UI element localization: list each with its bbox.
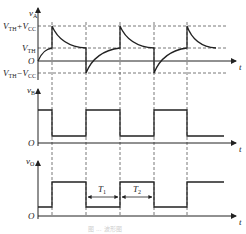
vb-waveform xyxy=(38,110,224,136)
vo-time-label: t xyxy=(239,217,242,227)
level-vth-minus-vcc: VTH−VCC xyxy=(3,68,36,79)
t2-label: T2 xyxy=(133,184,141,195)
t1-label: T1 xyxy=(98,184,106,195)
va-axis-label: vA xyxy=(29,8,38,19)
va-time-label: t xyxy=(239,62,242,72)
panel-vo: T1 T2 vO O t xyxy=(26,156,242,227)
timing-diagram: vA VTH+VCC VTH O VTH−VCC t vB O t T1 T2 … xyxy=(0,0,246,234)
va-origin-label: O xyxy=(28,56,35,66)
vb-axis-label: vB xyxy=(27,85,35,96)
level-vth-plus-vcc: VTH+VCC xyxy=(3,21,36,32)
panel-va: vA VTH+VCC VTH O VTH−VCC t xyxy=(3,8,242,80)
level-guides xyxy=(38,26,226,73)
vb-time-label: t xyxy=(239,144,242,154)
va-waveform xyxy=(38,26,216,73)
panel-vb: vB O t xyxy=(27,85,242,154)
level-vth: VTH xyxy=(22,43,36,54)
vb-origin-label: O xyxy=(28,138,35,148)
vo-origin-label: O xyxy=(28,211,35,221)
vo-waveform xyxy=(38,182,224,207)
vo-axis-label: vO xyxy=(26,156,35,167)
figure-caption: 图 ... 波形图 xyxy=(88,225,122,233)
